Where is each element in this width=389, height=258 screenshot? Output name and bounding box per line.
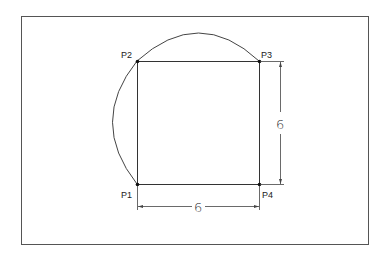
arc-left bbox=[113, 61, 138, 184]
point-p4-label: P4 bbox=[262, 190, 273, 200]
vertical-arrow-bottom bbox=[279, 179, 282, 184]
horizontal-dimension-value: 6 bbox=[194, 200, 202, 215]
point-p1-marker bbox=[136, 183, 140, 187]
point-p2-marker bbox=[136, 60, 140, 64]
drawing-canvas: P1 P2 P3 P4 6 6 bbox=[0, 0, 389, 258]
horizontal-arrow-left bbox=[138, 205, 143, 208]
point-p2-label: P2 bbox=[121, 50, 132, 60]
vertical-arrow-top bbox=[279, 62, 282, 67]
square bbox=[138, 62, 260, 185]
horizontal-arrow-right bbox=[254, 205, 259, 208]
arc-top bbox=[137, 33, 259, 61]
vertical-dimension-value: 6 bbox=[276, 117, 284, 132]
point-p3-label: P3 bbox=[261, 50, 272, 60]
point-p1-label: P1 bbox=[121, 190, 132, 200]
